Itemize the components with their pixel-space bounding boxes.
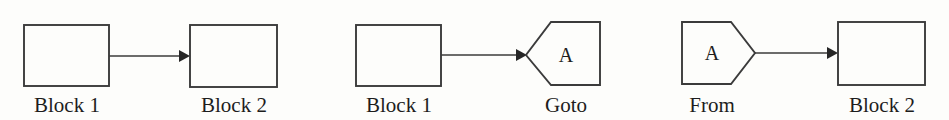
block-diagram-figure: Block 1 Block 2 A Block 1 Goto A From Bl…: [0, 0, 949, 120]
block-2-right-label: Block 2: [849, 93, 915, 117]
goto-tag-letter: A: [559, 44, 574, 66]
from-label: From: [689, 93, 735, 117]
block-2-left-label: Block 2: [201, 93, 267, 117]
block-1-mid-rect[interactable]: [356, 25, 441, 86]
block-2-left-rect[interactable]: [190, 25, 277, 87]
block-1-mid-label: Block 1: [366, 93, 432, 117]
block-1-left-rect[interactable]: [24, 25, 109, 86]
arrow-head-left-icon: [179, 50, 190, 62]
panel-goto: A Block 1 Goto: [356, 22, 600, 117]
goto-label: Goto: [545, 93, 587, 117]
panel-from: A From Block 2: [682, 22, 925, 117]
panel-direct-connection: Block 1 Block 2: [24, 25, 277, 117]
arrow-head-right-icon: [827, 47, 838, 59]
block-1-left-label: Block 1: [34, 93, 100, 117]
block-2-right-rect[interactable]: [838, 22, 925, 85]
from-tag-letter: A: [705, 42, 720, 64]
